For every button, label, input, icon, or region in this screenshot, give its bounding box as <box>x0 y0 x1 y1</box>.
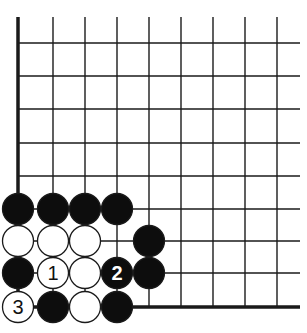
black-stone <box>3 258 34 289</box>
black-stone <box>38 194 69 225</box>
go-board: 123 <box>0 0 307 333</box>
white-stone: 3 <box>3 292 34 323</box>
white-stone <box>38 226 69 257</box>
move-number-label: 1 <box>47 262 58 284</box>
black-stone <box>102 194 133 225</box>
white-stone <box>70 226 101 257</box>
black-stone <box>70 194 101 225</box>
white-stone <box>70 292 101 323</box>
white-stone: 1 <box>38 258 69 289</box>
move-number-label: 3 <box>12 296 23 318</box>
black-stone <box>3 194 34 225</box>
black-stone <box>134 226 165 257</box>
black-stone <box>38 292 69 323</box>
white-stone <box>70 258 101 289</box>
white-stone <box>3 226 34 257</box>
black-stone: 2 <box>102 258 133 289</box>
stones-layer: 123 <box>3 194 165 323</box>
black-stone <box>102 292 133 323</box>
move-number-label: 2 <box>111 262 122 284</box>
black-stone <box>134 258 165 289</box>
